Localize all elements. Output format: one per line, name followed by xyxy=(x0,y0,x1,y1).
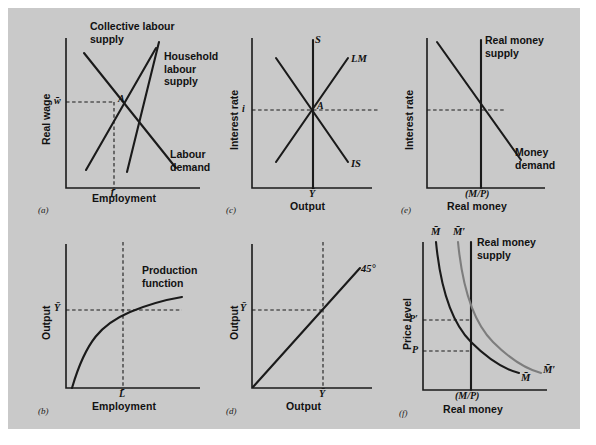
panel-b-xtick: L̄ xyxy=(119,388,125,399)
panel-e: Interest rate Real money (M/P) Real mone… xyxy=(395,20,575,220)
collective-labour-supply-label-l2: supply xyxy=(90,33,124,45)
panel-d: Output Output Ȳ Ȳ 45° (d) xyxy=(220,220,395,420)
panel-f-xlabel: Real money xyxy=(443,403,503,415)
figure-canvas: Real wage Employment w̄ L̄ A Collective … xyxy=(8,8,580,429)
supply-line-label: S xyxy=(315,34,321,47)
production-function-label: Production function xyxy=(142,264,197,289)
panel-b-xlabel: Employment xyxy=(92,400,156,412)
household-labour-supply-label: Household labour supply xyxy=(164,50,220,88)
lm-curve-label: LM xyxy=(351,53,367,66)
panel-a-xlabel: Employment xyxy=(92,192,156,204)
panel-a-equilibrium-point: A xyxy=(118,93,125,104)
real-money-supply-label-f: Real money supply xyxy=(477,236,536,261)
real-money-supply-label-f-l1: Real money xyxy=(477,236,536,248)
panel-f: Price level Real money (M/P) P′ P Real m… xyxy=(395,220,575,425)
panel-b-ytick: Ȳ xyxy=(54,302,60,313)
panel-c: Interest rate Output i Ȳ A S LM IS (c) xyxy=(220,20,395,220)
panel-e-xtick: (M/P) xyxy=(465,188,489,199)
panel-a-ylabel: Real wage xyxy=(40,94,52,145)
panel-d-xlabel: Output xyxy=(286,400,321,412)
panel-c-ytick: i xyxy=(242,103,245,114)
collective-labour-supply-label-l1: Collective labour xyxy=(90,20,175,32)
panel-f-ytick: P xyxy=(412,344,418,355)
forty-five-degree-label: 45° xyxy=(361,263,376,276)
production-function-curve xyxy=(72,297,182,388)
forty-five-degree-line xyxy=(253,268,360,387)
is-curve-label: IS xyxy=(351,158,361,171)
money-demand-line xyxy=(437,42,521,160)
panel-d-axes xyxy=(252,244,372,388)
panel-f-ylabel: Price level xyxy=(401,298,413,350)
collective-labour-supply-line xyxy=(86,48,156,170)
real-money-supply-label: Real money supply xyxy=(485,34,544,59)
panel-f-ytick-prime: P′ xyxy=(409,313,418,324)
production-function-label-l2: function xyxy=(142,277,183,289)
panel-d-plot xyxy=(220,220,395,420)
panel-f-xtick: (M/P) xyxy=(455,390,479,401)
panel-d-ylabel: Output xyxy=(228,306,240,340)
panel-a-ytick: w̄ xyxy=(54,95,61,106)
money-demand-label-l2: demand xyxy=(515,159,555,171)
panel-c-letter: (c) xyxy=(226,205,236,215)
household-labour-supply-label-l1: Household xyxy=(164,50,218,62)
real-money-supply-label-l1: Real money xyxy=(485,34,544,46)
panel-a-letter: (a) xyxy=(38,205,49,215)
panel-c-ylabel: Interest rate xyxy=(228,90,240,150)
real-money-supply-label-f-l2: supply xyxy=(477,249,511,261)
panel-e-letter: (e) xyxy=(401,205,411,215)
money-demand-label: Money demand xyxy=(515,146,555,171)
household-labour-supply-label-l2: labour supply xyxy=(164,63,198,88)
panel-c-plot xyxy=(220,20,395,220)
panel-d-ytick: Ȳ xyxy=(240,302,246,313)
panel-e-ylabel: Interest rate xyxy=(403,90,415,150)
panel-c-xlabel: Output xyxy=(290,200,325,212)
production-function-label-l1: Production xyxy=(142,264,197,276)
collective-labour-supply-label: Collective labour supply xyxy=(90,20,175,45)
household-labour-supply-line xyxy=(127,42,159,172)
panel-f-letter: (f) xyxy=(399,408,408,418)
real-money-supply-label-l2: supply xyxy=(485,47,519,59)
money-demand-label-l1: Money xyxy=(515,146,548,158)
panel-d-xtick: Ȳ xyxy=(319,388,325,399)
panel-a-xtick: L̄ xyxy=(110,188,116,199)
labour-demand-label-l2: demand xyxy=(170,161,210,173)
labour-demand-label: Labour demand xyxy=(170,148,210,173)
money-stock-m-prime-right-label: M̄′ xyxy=(543,364,555,377)
panel-b-letter: (b) xyxy=(38,406,49,416)
panel-c-xtick: Ȳ xyxy=(309,188,315,199)
panel-e-xlabel: Real money xyxy=(447,200,507,212)
panel-c-equilibrium-point: A xyxy=(317,100,324,111)
panel-b-ylabel: Output xyxy=(40,306,52,340)
money-stock-m-right-label: M̄ xyxy=(521,372,530,385)
money-stock-m-top-label: M̄ xyxy=(431,226,440,239)
labour-demand-label-l1: Labour xyxy=(170,148,206,160)
panel-b: Output Employment Ȳ L̄ Production funct… xyxy=(30,220,220,420)
money-stock-m-prime-top-label: M̄′ xyxy=(453,226,465,239)
panel-d-letter: (d) xyxy=(226,406,237,416)
panel-a: Real wage Employment w̄ L̄ A Collective … xyxy=(30,20,220,220)
